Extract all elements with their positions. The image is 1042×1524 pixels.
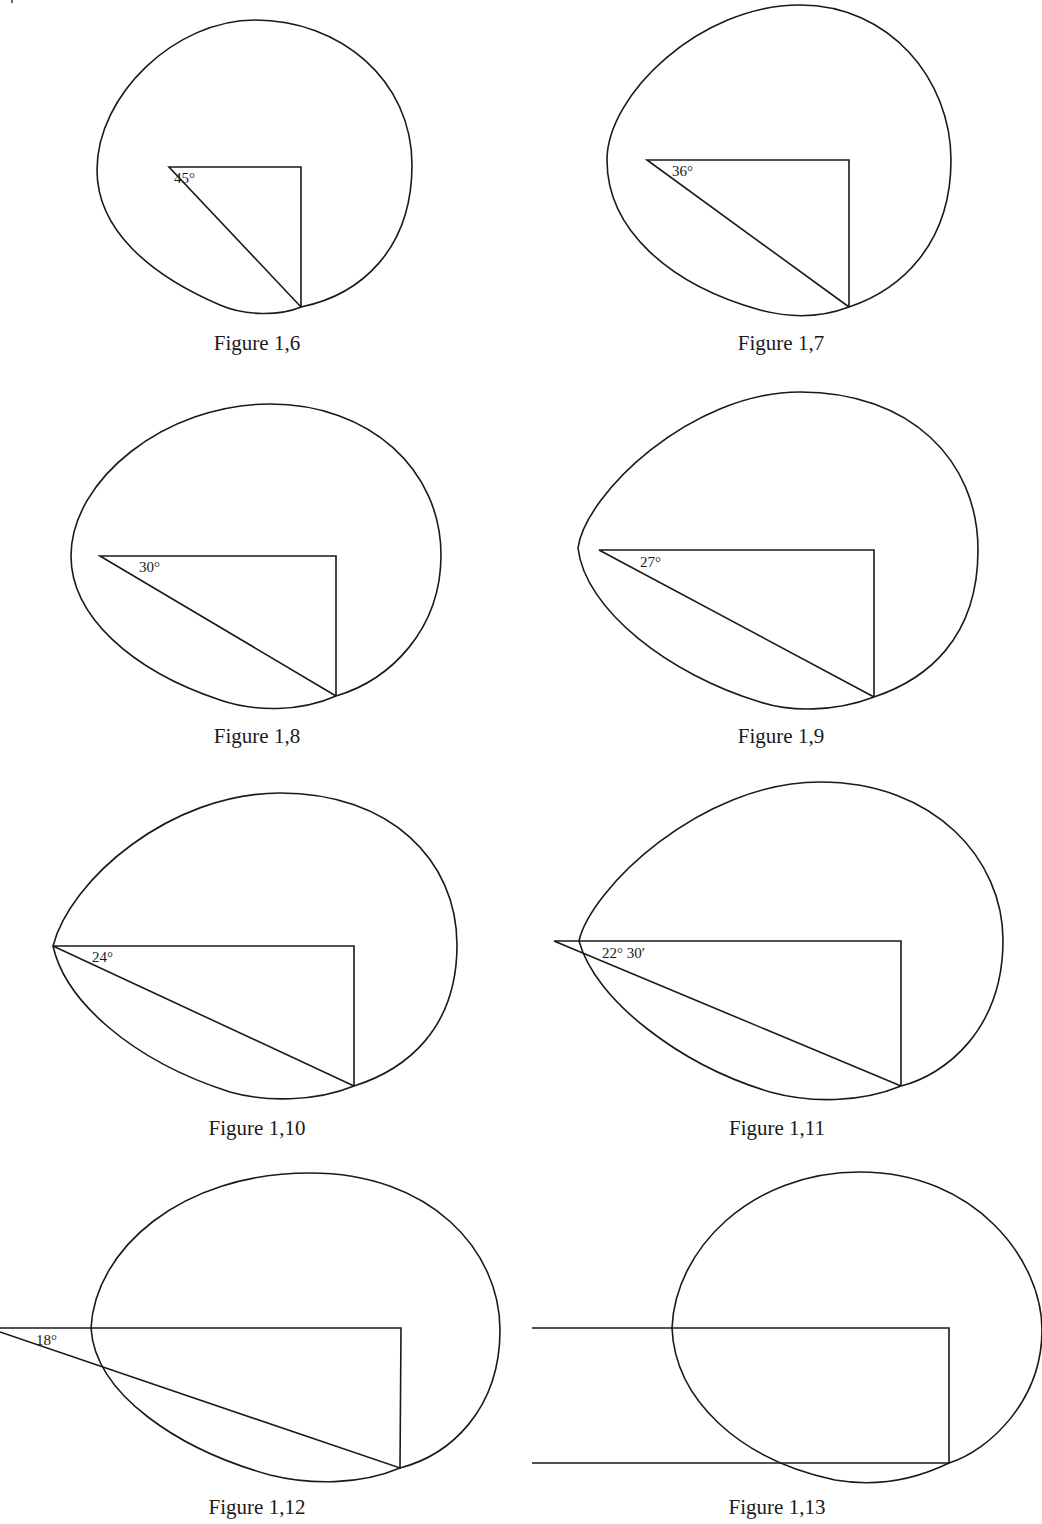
angle-label: 27° <box>640 554 661 570</box>
figure-1-8: 30° Figure 1,8 <box>71 404 441 748</box>
figure-1-7: 36° Figure 1,7 <box>607 5 951 355</box>
figure-page: 45° Figure 1,6 36° Figure 1,7 30° Figure… <box>0 0 1042 1524</box>
angle-label: 24° <box>92 949 113 965</box>
right-triangle <box>53 946 354 1086</box>
right-triangle <box>599 550 874 697</box>
figure-caption: Figure 1,6 <box>214 331 300 355</box>
figure-1-6: 45° Figure 1,6 <box>97 20 412 355</box>
figure-1-12: 18° Figure 1,12 <box>0 1173 500 1519</box>
right-triangle <box>647 160 849 307</box>
figure-caption: Figure 1,13 <box>729 1495 826 1519</box>
figure-caption: Figure 1,10 <box>209 1116 306 1140</box>
angle-label: 30° <box>139 559 160 575</box>
right-triangle <box>0 1328 401 1468</box>
open-rectangle <box>532 1328 949 1463</box>
figure-caption: Figure 1,8 <box>214 724 300 748</box>
figure-1-11: 22° 30′ Figure 1,11 <box>554 782 1003 1140</box>
figure-caption: Figure 1,12 <box>209 1495 306 1519</box>
figure-caption: Figure 1,11 <box>729 1116 825 1140</box>
figure-1-13: Figure 1,13 <box>532 1172 1042 1519</box>
right-triangle <box>100 556 336 696</box>
angle-label: 18° <box>36 1332 57 1348</box>
angle-label: 36° <box>672 163 693 179</box>
figure-caption: Figure 1,9 <box>738 724 824 748</box>
angle-label: 22° 30′ <box>602 945 645 961</box>
right-triangle <box>169 167 301 307</box>
figure-1-9: 27° Figure 1,9 <box>578 392 978 748</box>
right-triangle <box>554 941 901 1086</box>
figure-1-10: 24° Figure 1,10 <box>53 793 457 1140</box>
figure-caption: Figure 1,7 <box>738 331 824 355</box>
angle-label: 45° <box>174 170 195 186</box>
